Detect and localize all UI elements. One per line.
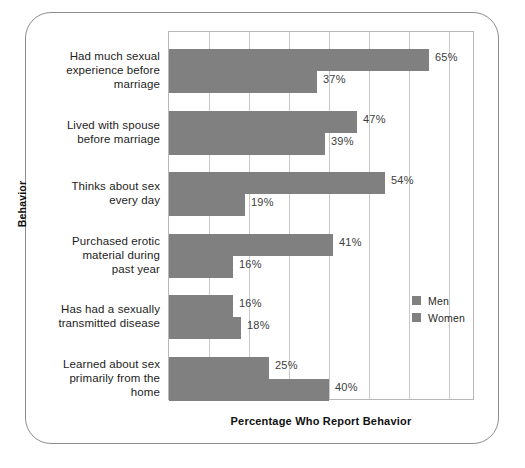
bar-value-label-men: 25% [275, 359, 298, 371]
category-label-line: Has had a sexually [24, 302, 160, 316]
category-label: Thinks about sexevery day [24, 179, 160, 207]
bar-men [169, 49, 429, 71]
category-label-line: before marriage [24, 132, 160, 146]
category-label-line: Had much sexual [24, 49, 160, 63]
bar-value-label-women: 18% [247, 319, 270, 331]
bar-group: 65%37% [169, 49, 473, 98]
bar-men [169, 295, 233, 317]
category-label-line: marriage [24, 77, 160, 91]
legend-item-women: Women [412, 309, 487, 326]
bar-women [169, 194, 245, 216]
bar-men [169, 172, 385, 194]
bar-value-label-women: 16% [239, 258, 262, 270]
category-label-line: Learned about sex [24, 357, 160, 371]
legend-label: Women [428, 312, 465, 324]
bar-women [169, 256, 233, 278]
bar-women [169, 317, 241, 339]
bar-group: 54%19% [169, 172, 473, 221]
bar-value-label-women: 39% [331, 135, 354, 147]
chart-legend: MenWomen [412, 292, 487, 326]
category-label-line: transmitted disease [24, 316, 160, 330]
legend-swatch-icon [412, 296, 421, 305]
category-label: Learned about sexprimarily from thehome [24, 357, 160, 399]
category-label-line: past year [24, 262, 160, 276]
bar-group: 41%16% [169, 234, 473, 283]
bar-men [169, 111, 357, 133]
category-label: Lived with spousebefore marriage [24, 118, 160, 146]
bar-chart: Behavior Had much sexualexperience befor… [0, 0, 525, 468]
legend-label: Men [428, 295, 449, 307]
bar-value-label-women: 40% [335, 381, 358, 393]
category-label-line: primarily from the [24, 371, 160, 385]
bar-value-label-men: 47% [363, 113, 386, 125]
bar-value-label-women: 19% [251, 196, 274, 208]
category-label-line: Thinks about sex [24, 179, 160, 193]
bar-value-label-men: 65% [435, 51, 458, 63]
bar-women [169, 133, 325, 155]
legend-swatch-icon [412, 313, 421, 322]
category-label: Has had a sexuallytransmitted disease [24, 302, 160, 330]
category-label: Had much sexualexperience beforemarriage [24, 49, 160, 91]
category-label: Purchased eroticmaterial duringpast year [24, 234, 160, 276]
x-axis-title: Percentage Who Report Behavior [168, 415, 474, 427]
category-axis-labels: Had much sexualexperience beforemarriage… [18, 31, 160, 400]
category-label-line: Lived with spouse [24, 118, 160, 132]
category-label-line: every day [24, 193, 160, 207]
category-label-line: material during [24, 248, 160, 262]
category-label-line: Purchased erotic [24, 234, 160, 248]
bar-value-label-women: 37% [323, 73, 346, 85]
category-label-line: home [24, 385, 160, 399]
bar-value-label-men: 54% [391, 174, 414, 186]
bar-women [169, 379, 329, 401]
category-label-line: experience before [24, 63, 160, 77]
bar-group: 25%40% [169, 357, 473, 406]
bar-women [169, 71, 317, 93]
bar-men [169, 234, 333, 256]
bar-value-label-men: 41% [339, 236, 362, 248]
legend-item-men: Men [412, 292, 487, 309]
bar-group: 47%39% [169, 111, 473, 160]
bar-men [169, 357, 269, 379]
plot-area: 65%37%47%39%54%19%41%16%16%18%25%40% [168, 31, 474, 400]
bar-value-label-men: 16% [239, 297, 262, 309]
